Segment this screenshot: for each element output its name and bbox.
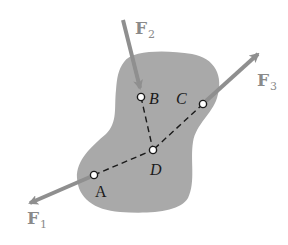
force-label-f3: F3: [257, 72, 277, 92]
force-symbol: F: [27, 208, 39, 228]
force-subscript: 3: [270, 80, 277, 93]
force-symbol: F: [135, 18, 147, 38]
force-label-f1: F1: [27, 210, 47, 230]
point-label-a: A: [95, 184, 107, 200]
point-label-c: C: [176, 91, 187, 107]
point-label-b: B: [149, 91, 159, 107]
force-label-f2: F2: [135, 20, 155, 40]
point-d-marker: [149, 146, 156, 153]
point-a-marker: [90, 171, 97, 178]
force-subscript: 2: [148, 28, 155, 41]
point-label-d: D: [150, 162, 162, 178]
free-body-diagram: F2 F3 F1 B C D A: [0, 0, 288, 245]
force-subscript: 1: [40, 218, 47, 231]
force-symbol: F: [257, 70, 269, 90]
point-c-marker: [199, 100, 206, 107]
point-b-marker: [137, 93, 144, 100]
